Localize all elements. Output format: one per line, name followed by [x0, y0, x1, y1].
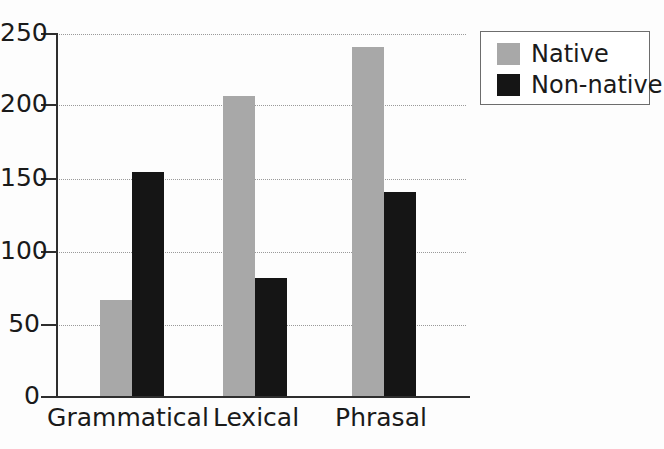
bar-lexical-non-native — [255, 278, 287, 397]
y-tick-mark-0 — [41, 396, 57, 398]
legend: Native Non-native — [480, 31, 650, 105]
bar-lexical-native — [223, 96, 255, 397]
x-tick-label-phrasal: Phrasal — [310, 403, 452, 433]
legend-item-native: Native — [497, 38, 649, 69]
gridline-200 — [57, 105, 466, 106]
y-tick-label-0: 0 — [0, 383, 40, 408]
y-tick-label-50: 50 — [0, 311, 40, 336]
legend-item-non-native: Non-native — [497, 69, 649, 100]
y-tick-label-100: 100 — [0, 238, 40, 263]
bar-grammatical-native — [100, 300, 132, 397]
legend-label-non-native: Non-native — [531, 72, 662, 98]
y-tick-label-200: 200 — [0, 91, 40, 116]
x-tick-label-lexical: Lexical — [186, 403, 326, 433]
nonnative-swatch-icon — [497, 74, 520, 96]
bar-phrasal-native — [352, 47, 384, 397]
gridline-250 — [57, 34, 466, 35]
bar-phrasal-non-native — [384, 192, 416, 397]
native-swatch-icon — [497, 43, 520, 65]
bar-chart: 250 200 150 100 50 0 Grammatical Lexical… — [0, 0, 664, 449]
y-tick-label-150: 150 — [0, 165, 40, 190]
plot-area — [57, 34, 466, 397]
gridline-150 — [57, 179, 466, 180]
y-axis-line — [56, 33, 58, 398]
bar-grammatical-non-native — [132, 172, 164, 397]
legend-label-native: Native — [531, 41, 609, 67]
y-tick-label-250: 250 — [0, 20, 40, 45]
y-tick-mark-50 — [41, 324, 57, 326]
x-axis-line — [56, 396, 470, 398]
